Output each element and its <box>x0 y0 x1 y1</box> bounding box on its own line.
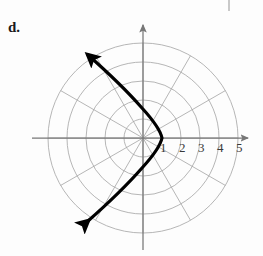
part-label: d. <box>8 20 20 35</box>
polar-figure: d. 1 2 3 4 5 <box>0 0 263 256</box>
tick-label-3: 3 <box>198 141 205 154</box>
tick-label-2: 2 <box>179 141 186 154</box>
tick-label-4: 4 <box>217 141 224 154</box>
tick-label-1: 1 <box>160 141 167 154</box>
tick-label-5: 5 <box>236 141 243 154</box>
coordinate-axes <box>32 25 248 250</box>
polar-plot-svg <box>0 0 263 256</box>
